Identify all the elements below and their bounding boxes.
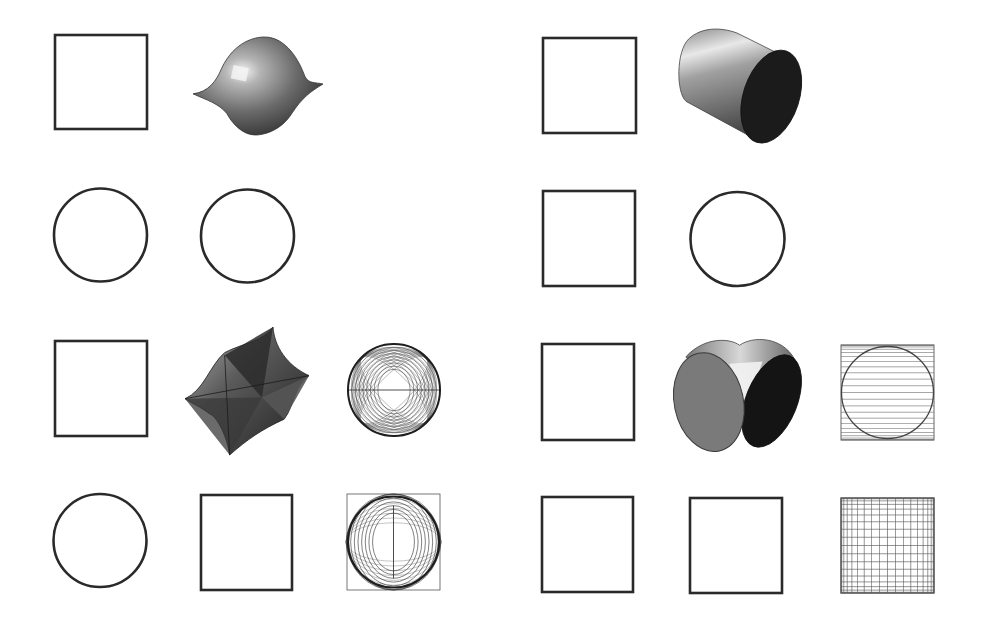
figure-canvas — [0, 0, 984, 627]
projection-square — [543, 191, 635, 286]
projection-square — [690, 498, 782, 593]
projection-square — [55, 35, 147, 129]
projection-square — [55, 341, 147, 436]
projection-circle — [201, 190, 294, 283]
projection-square — [542, 344, 634, 440]
projection-circle — [54, 494, 147, 587]
wireframe-grid — [841, 498, 934, 593]
dome-solid — [193, 37, 323, 135]
projection-square — [542, 497, 633, 592]
projection-diagram — [0, 0, 984, 627]
double-cylinder-solid — [665, 339, 814, 458]
projection-circle — [691, 192, 785, 286]
star-solid — [185, 327, 309, 455]
projection-square — [543, 38, 636, 133]
wireframe-box-circle — [841, 345, 934, 440]
projection-square — [201, 495, 292, 590]
cylinder-solid — [679, 29, 813, 151]
projection-circle — [54, 189, 147, 282]
wireframe-sphere — [334, 330, 455, 451]
wireframe-square-rings — [346, 494, 441, 590]
